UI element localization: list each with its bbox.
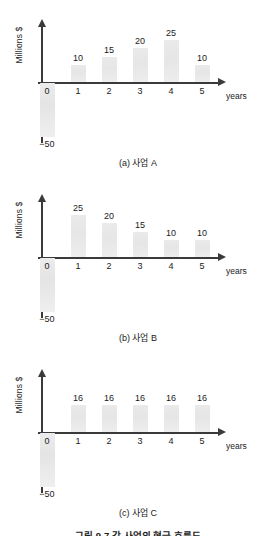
plot-area-a: Millions $ years −501015202510 012345 [0,0,276,152]
bar-value-label-year-1: 16 [62,393,94,403]
x-axis-line [38,82,220,84]
bar-year-3 [133,48,148,82]
bar-value-label-year-0: −50 [31,139,63,149]
bar-value-label-year-3: 16 [124,393,156,403]
bar-year-5 [195,240,210,257]
bar-year-1 [71,65,86,82]
x-axis-title: years [226,91,247,101]
x-tick-label-1: 1 [62,261,94,271]
bar-year-1 [71,405,86,432]
x-axis-arrow-icon [218,78,226,86]
figure-page: Millions $ years −501015202510 012345 (a… [0,0,276,536]
cash-flow-chart-b: Millions $ years −502520151010 012345 (b… [0,175,276,350]
chart-caption-c: (c) 사업 C [0,506,276,519]
x-tick-label-1: 1 [62,436,94,446]
cash-flow-chart-c: Millions $ years −501616161616 012345 (c… [0,350,276,525]
x-tick-label-4: 4 [155,261,187,271]
bar-value-label-year-4: 10 [155,228,187,238]
bar-value-label-year-2: 16 [93,393,125,403]
bar-value-label-year-4: 16 [155,393,187,403]
plot-area-c: Millions $ years −501616161616 012345 [0,350,276,502]
x-tick-label-0: 0 [31,261,63,271]
bar-year-4 [164,40,179,83]
bar-year-4 [164,240,179,257]
x-tick-label-0: 0 [31,436,63,446]
bar-value-label-year-5: 16 [186,393,218,403]
bar-value-label-year-3: 15 [124,220,156,230]
x-tick-label-4: 4 [155,436,187,446]
x-tick-label-0: 0 [31,86,63,96]
bar-year-2 [102,405,117,432]
bar-value-label-year-0: −50 [31,314,63,324]
bar-value-label-year-1: 10 [62,53,94,63]
y-axis-arrow-icon [38,19,46,27]
x-tick-label-1: 1 [62,86,94,96]
y-axis-title: Millions $ [14,10,24,80]
bar-value-label-year-5: 10 [186,53,218,63]
x-tick-label-2: 2 [93,86,125,96]
x-tick-label-4: 4 [155,86,187,96]
y-axis-title: Millions $ [14,360,24,430]
x-axis-line [38,432,220,434]
bar-year-3 [133,232,148,258]
x-tick-label-3: 3 [124,436,156,446]
x-tick-label-2: 2 [93,261,125,271]
chart-caption-b: (b) 사업 B [0,331,276,344]
x-axis-line [38,257,220,259]
cash-flow-chart-a: Millions $ years −501015202510 012345 (a… [0,0,276,175]
x-tick-label-5: 5 [186,436,218,446]
bar-year-1 [71,215,86,258]
bar-year-5 [195,65,210,82]
x-tick-label-5: 5 [186,261,218,271]
bar-year-4 [164,405,179,432]
bar-value-label-year-0: −50 [31,489,63,499]
y-axis-title: Millions $ [14,185,24,255]
x-axis-arrow-icon [218,253,226,261]
x-tick-label-3: 3 [124,86,156,96]
x-tick-label-5: 5 [186,86,218,96]
x-tick-label-3: 3 [124,261,156,271]
chart-caption-a: (a) 사업 A [0,156,276,169]
bar-value-label-year-4: 25 [155,28,187,38]
bar-value-label-year-2: 15 [93,45,125,55]
bar-value-label-year-3: 20 [124,36,156,46]
bar-value-label-year-1: 25 [62,203,94,213]
bar-year-2 [102,57,117,83]
x-axis-arrow-icon [218,428,226,436]
x-tick-label-2: 2 [93,436,125,446]
bar-year-5 [195,405,210,432]
figure-caption: 그림 9-7 각 사업의 현금 흐름도 [0,528,276,536]
x-axis-title: years [226,441,247,451]
bar-year-3 [133,405,148,432]
bar-year-2 [102,223,117,257]
plot-area-b: Millions $ years −502520151010 012345 [0,175,276,327]
bar-value-label-year-2: 20 [93,211,125,221]
y-axis-arrow-icon [38,369,46,377]
y-axis-arrow-icon [38,194,46,202]
x-axis-title: years [226,266,247,276]
bar-value-label-year-5: 10 [186,228,218,238]
